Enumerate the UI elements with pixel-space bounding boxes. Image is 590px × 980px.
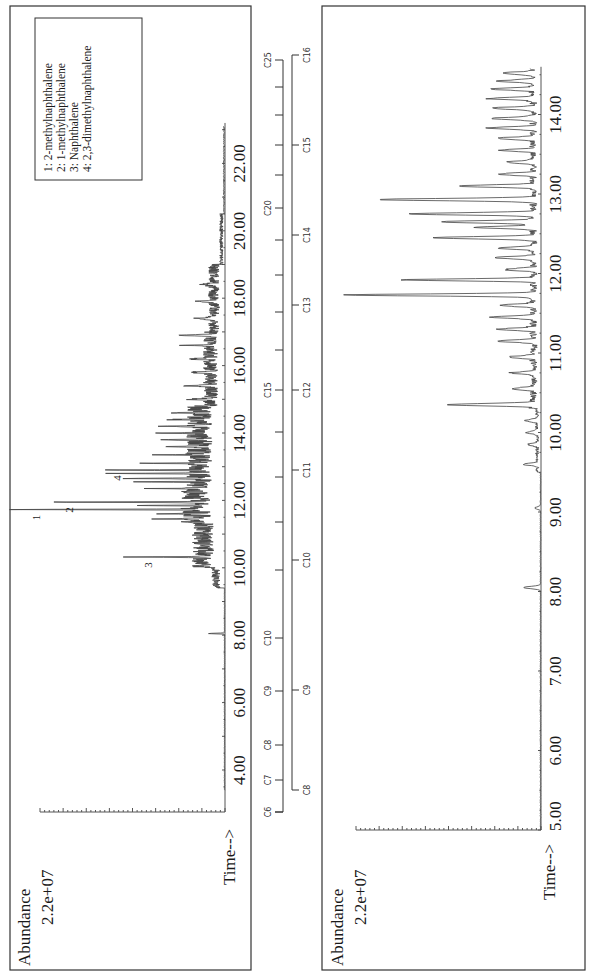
carbon-label-bottom: C11 (303, 462, 312, 478)
bottom-tick-label: 14.00 (546, 95, 565, 133)
top-tick-label: 18.00 (230, 279, 249, 317)
bottom-tick-label: 11.00 (546, 334, 565, 372)
carbon-label-top: C10 (264, 630, 273, 646)
top-tick-label: 12.00 (230, 481, 249, 519)
chromatogram-figure: Abundance 2.2e+07 Time--> 4.006.008.0010… (0, 0, 590, 980)
carbon-label-bottom: C12 (303, 382, 312, 398)
top-tick-label: 8.00 (230, 620, 249, 650)
bottom-axes (356, 67, 541, 830)
carbon-number-scales: C6C7C8C9C10C15C20C25C8C9C10C11C12C13C14C… (264, 47, 312, 817)
carbon-label-bottom: C10 (303, 552, 312, 568)
top-ylabel: Abundance (15, 889, 34, 966)
carbon-label-bottom: C16 (303, 47, 312, 63)
legend-item-3: 3: Naphthalene (68, 102, 81, 172)
bottom-tick-label: 8.00 (546, 577, 565, 607)
figure-stage: Abundance 2.2e+07 Time--> 4.006.008.0010… (0, 0, 590, 980)
bottom-ymax-label: 2.2e+07 (351, 869, 370, 925)
top-chromatogram-trace (10, 127, 225, 791)
top-ymax-label: 2.2e+07 (38, 869, 57, 925)
top-tick-label: 10.00 (230, 549, 249, 587)
top-chart: Abundance 2.2e+07 Time--> 4.006.008.0010… (10, 6, 252, 970)
bottom-tick-label: 12.00 (546, 254, 565, 292)
peak-label-4: 4 (111, 475, 123, 481)
top-tick-label: 20.00 (230, 212, 249, 250)
carbon-label-top: C8 (264, 740, 273, 751)
top-tick-label: 14.00 (230, 414, 249, 452)
legend-item-4: 4: 2,3-dimethylnaphthalene (81, 46, 94, 172)
peak-label-1: 1 (30, 515, 42, 521)
top-peak-labels: 1234 (30, 475, 154, 568)
top-tick-label: 16.00 (230, 346, 249, 384)
top-xlabel: Time--> (220, 829, 239, 885)
carbon-label-top: C15 (264, 382, 273, 398)
carbon-label-bottom: C9 (303, 685, 312, 696)
top-tick-label: 22.00 (230, 144, 249, 182)
bottom-ylabel: Abundance (328, 889, 347, 966)
peak-label-3: 3 (142, 562, 154, 568)
bottom-tick-label: 9.00 (546, 497, 565, 527)
peak-label-2: 2 (63, 507, 75, 512)
carbon-label-top: C9 (264, 686, 273, 697)
bottom-tick-labels: 5.006.007.008.009.0010.0011.0012.0013.00… (546, 95, 565, 831)
legend-item-1: 1: 2-methylnaphthalene (42, 63, 55, 172)
carbon-label-bottom: C13 (303, 297, 312, 313)
carbon-label-top: C6 (264, 807, 273, 818)
bottom-tick-label: 10.00 (546, 413, 565, 451)
bottom-xlabel: Time--> (540, 844, 559, 900)
top-legend: 1: 2-methylnaphthalene 2: 1-methylnaphth… (35, 18, 142, 180)
bottom-tick-label: 13.00 (546, 175, 565, 213)
carbon-label-bottom: C8 (303, 785, 312, 796)
bottom-chart: Abundance 2.2e+07 Time--> 5.006.007.008.… (322, 6, 585, 970)
carbon-label-bottom: C15 (303, 137, 312, 153)
top-tick-label: 4.00 (230, 755, 249, 785)
carbon-label-top: C25 (264, 52, 273, 68)
top-tick-label: 6.00 (230, 688, 249, 718)
carbon-label-top: C20 (264, 200, 273, 216)
bottom-tick-label: 5.00 (546, 801, 565, 831)
top-tick-labels: 4.006.008.0010.0012.0014.0016.0018.0020.… (230, 144, 249, 785)
bottom-chromatogram-trace (344, 69, 541, 830)
bottom-tick-label: 7.00 (546, 656, 565, 686)
bottom-tick-label: 6.00 (546, 736, 565, 766)
carbon-label-bottom: C14 (303, 227, 312, 243)
legend-item-2: 2: 1-methylnaphthalene (55, 63, 68, 172)
carbon-label-top: C7 (264, 775, 273, 786)
